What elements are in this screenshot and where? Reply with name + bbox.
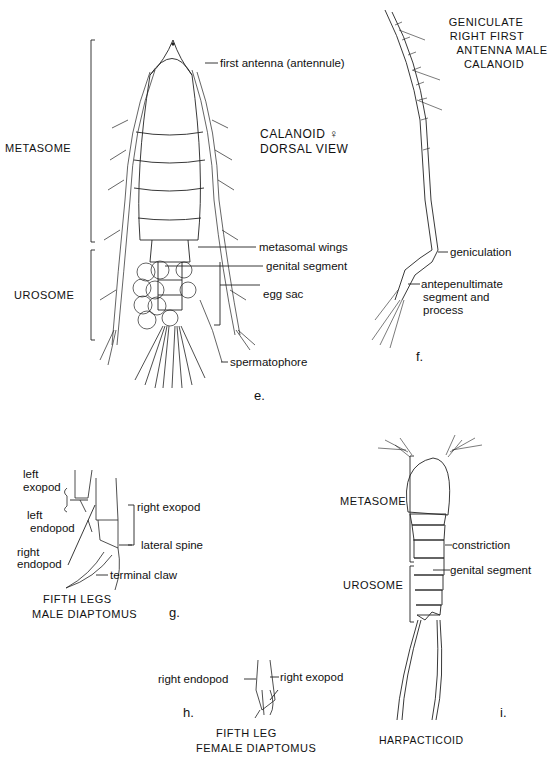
calanoid-body — [139, 40, 201, 240]
right-exopod-label: right exopod — [137, 501, 200, 514]
geniculate-title-line3: ANTENNA MALE — [449, 43, 555, 57]
left-exopod-label-line1: left — [23, 468, 38, 481]
fifth-legs-caption-line2: MALE DIAPTOMUS — [32, 607, 137, 621]
calanoid-title-line2: DORSAL VIEW — [260, 142, 348, 156]
geniculate-title-line1: GENICULATE — [417, 15, 555, 29]
harpacticoid-body — [406, 458, 449, 515]
terminal-claw-label: terminal claw — [110, 569, 177, 582]
right-endopod-label-h: right endopod — [158, 673, 228, 686]
geniculate-title-line4: CALANOID — [433, 57, 555, 71]
left-exopod-label-line2: exopod — [23, 481, 61, 494]
egg-sac-label: egg sac — [263, 288, 303, 301]
urosome-label-i: UROSOME — [343, 578, 403, 592]
figure-letter-h: h. — [183, 705, 194, 720]
constriction-label: constriction — [452, 539, 510, 552]
geniculate-title-line2: RIGHT FIRST — [419, 29, 555, 43]
antepenultimate-label-line1: antepenultimate — [421, 278, 503, 291]
antepenultimate-label-line3: process — [423, 304, 463, 317]
genital-segment-label-i: genital segment — [450, 564, 531, 577]
metasome-label: METASOME — [5, 141, 71, 155]
urosome-bracket-i — [410, 566, 414, 622]
left-endopod-label-line1: left — [27, 509, 42, 522]
figure-letter-i: i. — [500, 705, 507, 720]
antepenultimate-label-line2: segment and — [423, 291, 490, 304]
geniculation-label: geniculation — [450, 246, 511, 259]
lateral-spine-label: lateral spine — [141, 539, 203, 552]
metasomal-wings-label: metasomal wings — [259, 241, 348, 254]
spermatophore-label: spermatophore — [230, 356, 307, 369]
figure-letter-g: g. — [169, 605, 180, 620]
genital-segment-label: genital segment — [266, 260, 347, 273]
metasome-label-i: METASOME — [340, 494, 406, 508]
figure-letter-f: f. — [416, 349, 423, 364]
figure-letter-e: e. — [254, 388, 265, 403]
fifth-leg-caption-line2: FEMALE DIAPTOMUS — [196, 741, 316, 755]
fifth-legs-caption-line1: FIFTH LEGS — [43, 592, 112, 606]
urosome-label: UROSOME — [14, 288, 74, 302]
urosome-bracket — [91, 250, 95, 340]
metasome-bracket — [91, 40, 95, 242]
right-endopod-label-line2: endopod — [17, 558, 62, 571]
fifth-leg-caption-line1: FIFTH LEG — [216, 726, 277, 740]
right-exopod-label-h: right exopod — [280, 671, 343, 684]
harpacticoid-caption: HARPACTICOID — [379, 733, 464, 747]
copepod-line-drawings — [0, 0, 558, 765]
geniculate-title: GENICULATE RIGHT FIRST ANTENNA MALE CALA… — [425, 15, 555, 71]
calanoid-title-line1: CALANOID ♀ — [260, 127, 339, 141]
left-endopod-label-line2: endopod — [30, 522, 75, 535]
first-antenna-label: first antenna (antennule) — [220, 57, 345, 70]
